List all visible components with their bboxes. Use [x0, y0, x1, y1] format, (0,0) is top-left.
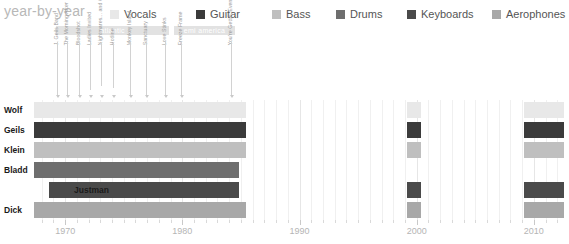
axis-tick — [264, 220, 265, 223]
legend-item-bass[interactable]: Bass — [272, 4, 310, 18]
axis-tick — [241, 220, 242, 223]
timeline-bar — [253, 142, 405, 158]
timeline-bar — [407, 182, 421, 198]
timeline-plot: WolfGeilsKleinBladdJustmanDick — [30, 100, 569, 220]
row-label-bladd: Bladd — [0, 160, 28, 180]
axis-tick — [147, 220, 148, 223]
album-leader-line — [165, 42, 166, 96]
axis-tick — [546, 220, 547, 223]
row-label-justman: Justman — [70, 180, 109, 200]
axis-tick — [370, 220, 371, 223]
album-arrow-icon — [66, 95, 70, 98]
timeline-row-geils[interactable]: Geils — [30, 120, 569, 140]
axis-tick — [112, 220, 113, 223]
timeline-bar — [524, 202, 564, 218]
axis-tick — [124, 220, 125, 223]
legend-label: Keyboards — [421, 8, 474, 20]
legend-swatch-icon — [110, 10, 119, 19]
timeline-bar — [34, 202, 246, 218]
legend-label: Guitar — [210, 8, 240, 20]
timeline-bar — [253, 202, 405, 218]
album-arrow-icon — [164, 95, 168, 98]
axis-tick — [405, 220, 406, 223]
timeline-row-dick[interactable]: Dick — [30, 200, 569, 220]
legend-item-drums[interactable]: Drums — [336, 4, 382, 18]
album-arrow-icon — [230, 95, 234, 98]
axis-tick — [135, 220, 136, 223]
timeline-row-justman[interactable]: Justman — [30, 180, 569, 200]
album-arrow-icon — [89, 95, 93, 98]
album-arrow-icon — [180, 95, 184, 98]
album-leader-line — [57, 42, 58, 96]
legend-label: Bass — [286, 8, 310, 20]
axis-tick — [182, 220, 183, 225]
axis-year-label: 1980 — [172, 226, 192, 236]
album-arrow-icon — [129, 95, 133, 98]
axis-tick — [428, 220, 429, 223]
timeline-row-wolf[interactable]: Wolf — [30, 100, 569, 120]
album-arrow-icon — [78, 95, 82, 98]
axis-tick — [171, 220, 172, 223]
axis-tick — [42, 220, 43, 223]
axis-tick — [487, 220, 488, 223]
timeline-bar — [34, 142, 246, 158]
axis-tick — [194, 220, 195, 223]
axis-tick — [276, 220, 277, 223]
timeline-bar — [426, 122, 522, 138]
album-arrow-icon — [112, 95, 116, 98]
axis-tick — [217, 220, 218, 223]
axis-tick — [288, 220, 289, 223]
legend-item-guitar[interactable]: Guitar — [196, 4, 240, 18]
album-arrow-icon — [145, 95, 149, 98]
axis-tick — [522, 220, 523, 223]
axis-tick — [358, 220, 359, 223]
legend-item-aerophones[interactable]: Aerophones — [492, 4, 565, 18]
axis-tick — [382, 220, 383, 223]
timeline-bar — [524, 122, 564, 138]
axis-tick — [417, 220, 418, 225]
axis-tick — [159, 220, 160, 223]
axis-tick — [53, 220, 54, 223]
album-arrow-icon — [56, 95, 60, 98]
legend-item-vocals[interactable]: Vocals — [110, 4, 156, 18]
album-leader-line — [181, 42, 182, 96]
timeline-bar — [524, 102, 564, 118]
timeline-bar — [407, 122, 421, 138]
legend-item-keyboards[interactable]: Keyboards — [407, 4, 474, 18]
axis-tick — [452, 220, 453, 223]
album-leader-line — [67, 42, 68, 96]
legend-swatch-icon — [272, 10, 281, 19]
row-label-klein: Klein — [0, 140, 25, 160]
album-leader-line — [130, 42, 131, 96]
album-annotation: You're Gettin' Even While I'm Gettin' Od… — [228, 0, 233, 45]
axis-tick — [534, 220, 535, 225]
timeline-bar — [407, 142, 421, 158]
axis-year-label: 1990 — [289, 226, 309, 236]
axis-year-label: 2010 — [524, 226, 544, 236]
timeline-bar — [253, 122, 405, 138]
album-leader-line — [146, 42, 147, 96]
timeline-bar — [253, 182, 405, 198]
axis-tick — [335, 220, 336, 223]
axis-tick — [100, 220, 101, 223]
axis-tick — [89, 220, 90, 223]
axis-tick — [229, 220, 230, 223]
timeline-bar — [34, 162, 239, 178]
album-annotation: Ladies Invited — [87, 12, 92, 45]
timeline-row-bladd[interactable]: Bladd — [30, 160, 569, 180]
timeline-bar — [524, 182, 564, 198]
x-axis: 19701980199020002010 — [30, 220, 569, 244]
axis-tick — [464, 220, 465, 223]
timeline-bar — [34, 122, 246, 138]
axis-year-label: 1970 — [55, 226, 75, 236]
axis-tick — [77, 220, 78, 223]
row-label-dick: Dick — [0, 200, 22, 220]
axis-tick — [499, 220, 500, 223]
album-leader-line — [101, 42, 102, 86]
axis-tick — [206, 220, 207, 223]
row-label-wolf: Wolf — [0, 100, 22, 120]
timeline-bar — [407, 202, 421, 218]
timeline-row-klein[interactable]: Klein — [30, 140, 569, 160]
legend-label: Drums — [350, 8, 382, 20]
album-leader-line — [90, 42, 91, 90]
